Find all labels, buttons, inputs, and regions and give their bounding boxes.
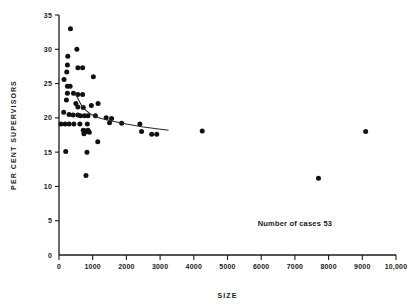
- x-tick-label: 0: [57, 263, 61, 270]
- x-axis-title: SIZE: [218, 292, 238, 299]
- y-tick-label: 35: [44, 12, 52, 19]
- data-point: [81, 131, 86, 136]
- data-point: [64, 98, 69, 103]
- y-axis: 05101520253035: [44, 12, 59, 259]
- data-point: [200, 128, 205, 133]
- data-point: [139, 129, 144, 134]
- y-tick-label: 30: [44, 46, 52, 53]
- x-tick-label: 4000: [186, 263, 202, 270]
- data-point: [71, 122, 76, 127]
- data-point: [65, 54, 70, 59]
- data-point: [65, 63, 70, 68]
- data-point: [95, 139, 100, 144]
- x-tick-label: 7000: [287, 263, 303, 270]
- y-tick-label: 20: [44, 114, 52, 121]
- data-point: [80, 65, 85, 70]
- data-point: [63, 149, 68, 154]
- y-tick-label: 0: [48, 252, 52, 259]
- y-tick-label: 5: [48, 217, 52, 224]
- data-point: [149, 132, 154, 137]
- data-point: [71, 113, 76, 118]
- x-tick-label: 10,000: [385, 263, 408, 271]
- x-tick-label: 5000: [219, 263, 235, 270]
- x-tick-label: 6000: [253, 263, 269, 270]
- data-point: [67, 122, 72, 127]
- y-tick-label: 15: [44, 149, 52, 156]
- plot-canvas: 05101520253035 0100020003000400050006000…: [0, 0, 419, 308]
- x-tick-label: 8000: [320, 263, 336, 270]
- data-point: [91, 74, 96, 79]
- data-point: [77, 122, 82, 127]
- cases-annotation: Number of cases 53: [258, 219, 332, 228]
- data-point: [62, 77, 67, 82]
- x-tick-label: 3000: [152, 263, 168, 270]
- data-point: [83, 173, 88, 178]
- data-point: [87, 130, 92, 135]
- data-point: [74, 47, 79, 52]
- data-point: [316, 176, 321, 181]
- y-axis-title: PER CENT SUPERVISORS: [10, 80, 17, 190]
- x-tick-label: 2000: [118, 263, 134, 270]
- data-points-layer: [59, 26, 369, 180]
- data-point: [89, 103, 94, 108]
- data-point: [75, 104, 80, 109]
- data-point: [61, 110, 66, 115]
- y-tick-label: 25: [44, 80, 52, 87]
- data-point: [68, 84, 73, 89]
- annotations-layer: Number of cases 53: [258, 219, 332, 228]
- data-point: [80, 92, 85, 97]
- data-point: [154, 132, 159, 137]
- scatter-plot-figure: 05101520253035 0100020003000400050006000…: [0, 0, 419, 308]
- x-axis: 010002000300040005000600070008000900010,…: [57, 255, 407, 271]
- data-point: [96, 101, 101, 106]
- data-point: [75, 65, 80, 70]
- x-tick-label: 9000: [354, 263, 370, 270]
- data-point: [84, 150, 89, 155]
- data-point: [64, 69, 69, 74]
- data-point: [68, 26, 73, 31]
- data-point: [85, 122, 90, 127]
- x-tick-label: 1000: [85, 263, 101, 270]
- y-tick-label: 10: [44, 183, 52, 190]
- data-point: [363, 129, 368, 134]
- data-point: [65, 91, 70, 96]
